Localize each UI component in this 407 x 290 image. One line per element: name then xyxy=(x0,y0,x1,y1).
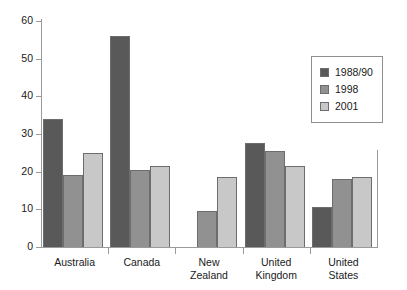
x-axis-category-label-line: United xyxy=(310,256,377,269)
plot-area xyxy=(41,21,377,247)
legend-item-label: 2001 xyxy=(335,100,358,113)
x-axis-category-label-line: United xyxy=(243,256,310,269)
bar xyxy=(63,175,83,247)
bar xyxy=(110,36,130,247)
legend-color-swatch xyxy=(320,68,329,77)
y-axis-tick-label: 60 xyxy=(21,14,33,27)
y-axis-tick-label: 0 xyxy=(27,240,33,253)
x-axis-category-label-line: Canada xyxy=(108,256,175,269)
x-axis-category-label: UnitedStates xyxy=(310,256,377,282)
x-axis-line xyxy=(41,247,378,248)
bar xyxy=(150,166,170,247)
legend-color-swatch xyxy=(320,85,329,94)
x-axis-category-label-line: New xyxy=(175,256,242,269)
y-axis-tick-label: 20 xyxy=(21,165,33,178)
y-axis-tick-mark xyxy=(36,247,41,248)
x-axis-category-label-line: Zealand xyxy=(175,269,242,282)
bar xyxy=(245,143,265,247)
legend-item: 2001 xyxy=(320,98,373,115)
legend-item: 1998 xyxy=(320,81,373,98)
legend-color-swatch xyxy=(320,102,329,111)
bar xyxy=(265,151,285,247)
bar xyxy=(217,177,237,247)
bar-group-bars xyxy=(310,21,377,247)
x-axis-tick-mark xyxy=(175,248,176,254)
x-axis-tick-mark xyxy=(243,248,244,254)
x-axis-tick-mark xyxy=(310,248,311,254)
y-axis-tick-label: 30 xyxy=(21,127,33,140)
bar xyxy=(197,211,217,247)
x-axis-category-label-line: States xyxy=(310,269,377,282)
plot-right-edge-line xyxy=(377,150,378,248)
legend-item-label: 1988/90 xyxy=(335,66,373,79)
bar-group xyxy=(41,21,108,247)
x-axis-category-label-line: Australia xyxy=(41,256,108,269)
bar xyxy=(352,177,372,247)
bar xyxy=(43,119,63,247)
x-axis-category-label: Australia xyxy=(41,256,108,269)
y-axis-tick-label: 10 xyxy=(21,202,33,215)
legend-item: 1988/90 xyxy=(320,64,373,81)
bar-group xyxy=(310,21,377,247)
bar-group-bars xyxy=(41,21,108,247)
bar-chart-figure: 0102030405060 AustraliaCanadaNewZealandU… xyxy=(0,0,407,290)
bar-group xyxy=(108,21,175,247)
bar xyxy=(285,166,305,247)
legend: 1988/9019982001 xyxy=(311,56,383,123)
x-axis-category-label: NewZealand xyxy=(175,256,242,282)
bar-group-bars xyxy=(108,21,175,247)
bar xyxy=(130,170,150,247)
x-axis-tick-mark xyxy=(108,248,109,254)
x-axis-category-label-line: Kingdom xyxy=(243,269,310,282)
bar xyxy=(332,179,352,247)
bar-group xyxy=(175,21,242,247)
legend-item-label: 1998 xyxy=(335,83,358,96)
y-axis-tick-label: 40 xyxy=(21,89,33,102)
bar-group-bars xyxy=(175,21,242,247)
bar xyxy=(312,207,332,247)
x-axis-category-label: Canada xyxy=(108,256,175,269)
bar xyxy=(83,153,103,247)
y-axis-tick-label: 50 xyxy=(21,52,33,65)
bar-group xyxy=(243,21,310,247)
bar-group-bars xyxy=(243,21,310,247)
x-axis-category-label: UnitedKingdom xyxy=(243,256,310,282)
